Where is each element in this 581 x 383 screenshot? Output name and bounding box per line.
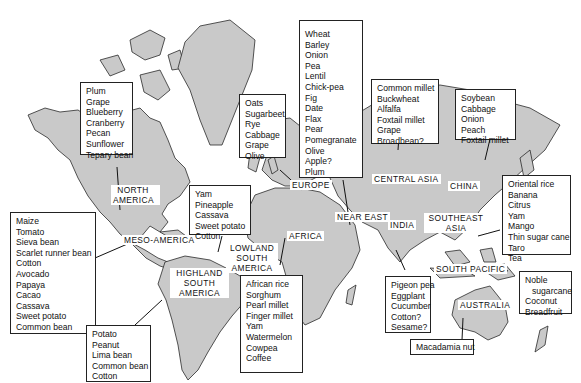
crop-item: Olive [305,146,357,157]
crop-item: Sorghum [246,290,297,301]
crop-item: Lima bean [92,350,145,361]
region-label-china: CHINA [448,181,480,191]
australia-landmass [452,286,508,340]
crop-item: Peanut [92,340,145,351]
region-label-south-pacific: SOUTH PACIFIC [434,264,507,274]
crop-item: Eggplant [391,291,425,302]
region-label-lowland-south-america: LOWLAND SOUTH AMERICA [226,243,278,273]
crop-item: Tepary bean [86,150,127,161]
crop-item: Plum [86,86,127,97]
crop-item: Scarlet runner bean [16,248,90,259]
crop-item: Breadfruit [525,307,566,318]
crop-item: Cowpea [246,343,297,354]
crop-item: Maize [16,216,90,227]
arrow-highland-south-america [135,300,162,325]
crop-item: Grape [86,97,127,108]
crop-item: Sugarbeet [245,109,280,120]
crop-item: Common millet [377,83,433,94]
region-label-southeast-asia: SOUTHEAST ASIA [424,213,488,233]
crop-item: Broadbean? [377,136,433,147]
crop-item: Olive [245,151,280,162]
crop-origins-map: NORTH AMERICA MESO-AMERICA HIGHLAND SOUT… [0,0,581,383]
new-zealand [535,326,548,352]
crop-item: Citrus [508,200,565,211]
crop-item: Apple? [305,156,357,167]
crop-item: Date [305,103,357,114]
crop-item: Sesame? [391,322,425,333]
crop-box-central-asia: Common millet Buckwheat Alfalfa Foxtail … [371,79,439,144]
region-label-highland-south-america: HIGHLAND SOUTH AMERICA [170,268,229,298]
crop-item: Common bean [92,361,145,372]
crop-item: Pea [305,61,357,72]
crop-item: Chick-pea [305,82,357,93]
crop-item: Cotton [195,231,245,242]
crop-item: Foxtail millet [377,115,433,126]
crop-item: Grape [377,125,433,136]
crop-box-europe: Oats Sugarbeet Rye Cabbage Grape Olive [239,94,286,158]
crop-item: Sweet potato [16,311,90,322]
crop-item: Papaya [16,280,90,291]
crop-item: Peach [461,125,510,136]
crop-item: Fig [305,93,357,104]
region-label-near-east: NEAR EAST [335,212,390,222]
crop-item: African rice [246,279,297,290]
madagascar [346,285,356,305]
crop-item: Cassava [16,301,90,312]
crop-item: sugarcane [525,286,566,297]
crop-item: Macadamia nut [416,342,468,353]
crop-item: Cranberry [86,118,127,129]
crop-item: Cotton [92,371,145,382]
crop-item: Tea [508,253,565,264]
crop-item: Alfalfa [377,104,433,115]
crop-item: Yam [508,211,565,222]
crop-item: Yam [246,321,297,332]
crop-item: Pecan [86,128,127,139]
crop-item: Tomato [16,227,90,238]
region-label-africa: AFRICA [287,231,324,241]
crop-item: Taro [508,243,565,254]
crop-item: Onion [305,50,357,61]
crop-box-highland-south-america: Potato Peanut Lima bean Common bean Cott… [86,325,151,382]
crop-item: Oriental rice [508,179,565,190]
crop-item: Oats [245,98,280,109]
crop-box-china: Soybean Cabbage Onion Peach Foxtail mill… [455,89,516,140]
crop-item: Buckwheat [377,94,433,105]
crop-item: Barley [305,40,357,51]
crop-item: Pigeon pea [391,280,425,291]
crop-item: Sunflower [86,139,127,150]
region-label-europe: EUROPE [290,180,332,190]
crop-item: Cassava [195,210,245,221]
crop-box-south-pacific: Noble sugarcane Coconut Breadfruit [519,271,572,314]
crop-item: Pineapple [195,200,245,211]
crop-item: Wheat [305,29,357,40]
region-label-australia: AUSTRALIA [458,300,512,310]
crop-box-australia: Macadamia nut [410,339,474,355]
region-label-india: INDIA [388,220,416,230]
crop-item: Plum [305,167,357,178]
region-label-north-america: NORTH AMERICA [111,185,160,205]
crop-item: Yam [195,189,245,200]
crop-item: Cabbage [245,130,280,141]
crop-box-india: Pigeon pea Eggplant Cucumber Cotton? Ses… [385,276,431,333]
crop-item: Cacao [16,290,90,301]
crop-item: Pearl millet [246,300,297,311]
crop-item: Grape [245,140,280,151]
crop-item: Avocado [16,269,90,280]
crop-item: Common bean [16,322,90,333]
crop-item: Thin sugar cane [508,232,565,243]
crop-item: Banana [508,190,565,201]
crop-box-lowland-south-america: Yam Pineapple Cassava Sweet potato Cotto… [189,185,251,235]
crop-item: Foxtail millet [461,135,510,146]
crop-item: Onion [461,114,510,125]
crop-item: Potato [92,329,145,340]
crop-item: Blueberry [86,107,127,118]
region-text: NORTH AMERICA [113,185,153,205]
crop-item: Finger millet [246,311,297,322]
crop-item: Cotton [16,258,90,269]
crop-item: Cucumber [391,301,425,312]
crop-item: Pomegranate [305,135,357,146]
crop-item: Lentil [305,71,357,82]
crop-item: Mango [508,221,565,232]
crop-item: Sieva bean [16,237,90,248]
crop-item: Coffee [246,353,297,364]
